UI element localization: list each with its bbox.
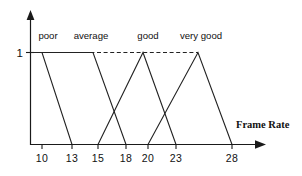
set-label-poor: poor <box>38 30 58 41</box>
x-axis-arrow-icon <box>255 140 266 148</box>
fuzzy-membership-chart: 1 10 13 15 18 20 23 28 poor <box>0 0 302 176</box>
chart-canvas: 1 10 13 15 18 20 23 28 poor <box>0 0 302 176</box>
y-tick-label-1: 1 <box>17 47 23 59</box>
x-tick-label-6: 28 <box>226 152 238 164</box>
set-label-very-good: very good <box>180 30 222 41</box>
x-tick-label-3: 18 <box>120 152 132 164</box>
x-tick-label-2: 15 <box>92 152 104 164</box>
x-axis-title: Frame Rate <box>236 119 290 130</box>
x-tick-label-0: 10 <box>36 152 48 164</box>
y-axis-arrow-icon <box>27 10 35 20</box>
x-tick-label-4: 20 <box>142 152 154 164</box>
x-tick-label-5: 23 <box>170 152 182 164</box>
membership-curve-average <box>31 53 126 145</box>
x-tick-marks <box>42 145 232 150</box>
y-axis <box>27 10 35 145</box>
membership-curve-very-good <box>148 53 232 145</box>
x-tick-label-1: 13 <box>66 152 78 164</box>
membership-curve-poor <box>31 53 72 145</box>
set-label-good: good <box>137 30 158 41</box>
set-label-average: average <box>74 30 109 41</box>
